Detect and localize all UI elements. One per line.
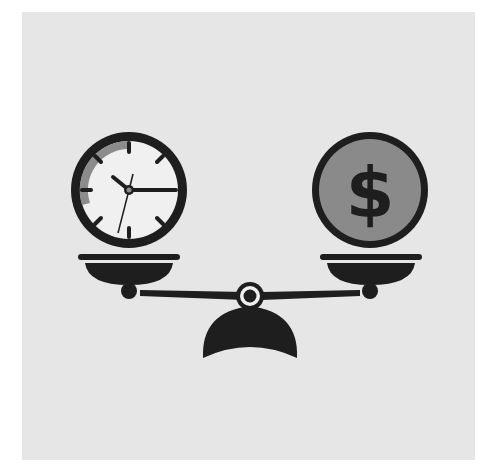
dollar-coin-icon: $ [312, 132, 428, 248]
left-scale-pan [78, 254, 180, 285]
dollar-sign: $ [346, 152, 395, 234]
clock-icon [71, 132, 187, 248]
right-scale-pan [320, 254, 422, 285]
balance-scale-illustration: $ [0, 0, 500, 473]
